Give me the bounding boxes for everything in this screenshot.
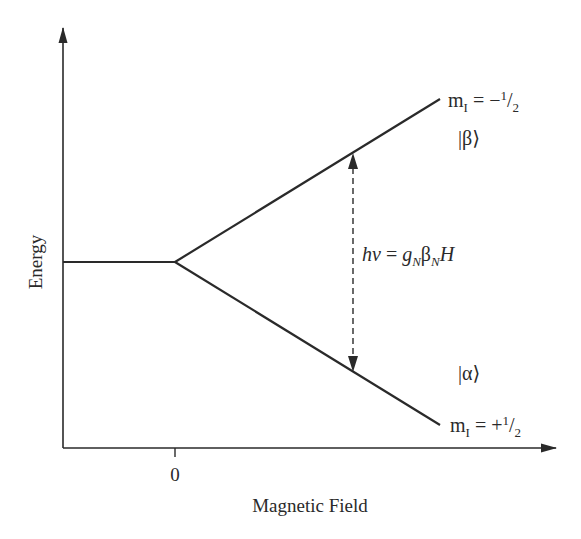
alpha-state-label: |α⟩ [458,362,480,385]
y-axis-label: Energy [25,234,46,289]
lower-mi-label: mI = +1/2 [450,413,521,440]
svg-text:mI = +1/2: mI = +1/2 [450,413,521,440]
x-axis-label: Magnetic Field [252,495,368,516]
zero-tick-label: 0 [170,464,180,485]
svg-text:hν = gNβNH: hν = gNβNH [362,243,456,269]
transition-equation: hν = gNβNH [362,243,456,269]
beta-state-label: |β⟩ [458,127,480,150]
alpha-level-line [175,262,440,425]
upper-mi-label: mI = −1/2 [448,88,519,115]
transition-arrow [348,153,358,372]
zeeman-diagram: Energy Magnetic Field 0 mI = −1/2 |β⟩ |α… [0,0,581,539]
beta-level-line [175,99,440,262]
svg-text:mI = −1/2: mI = −1/2 [448,88,519,115]
